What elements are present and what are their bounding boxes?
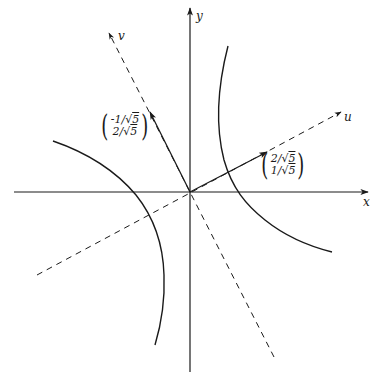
left-paren: (	[261, 150, 268, 180]
right-paren: )	[142, 111, 149, 141]
hyperbola-left-branch	[53, 141, 164, 345]
y-axis-label: y	[195, 9, 203, 23]
hyperbola-right-branch	[219, 46, 332, 252]
v-unit-vector-arrow	[150, 112, 190, 192]
left-paren: (	[101, 111, 108, 141]
u-axis-dashed	[37, 112, 341, 275]
hyperbola-rotated-axes-diagram: x y u v	[0, 0, 381, 385]
vector-entries: 2/√5 1/√5	[271, 153, 296, 177]
right-paren: )	[298, 150, 305, 180]
vector-entries: -1/√5 2/√5	[111, 114, 139, 138]
v-axis-label: v	[118, 29, 125, 43]
u-vector-label: ( 2/√5 1/√5 )	[259, 150, 307, 180]
v-vector-bottom-entry: 2/√5	[113, 126, 138, 138]
v-axis-dashed	[109, 33, 274, 357]
u-axis-label: u	[344, 110, 352, 124]
v-vector-label: ( -1/√5 2/√5 )	[99, 111, 151, 141]
x-axis-label: x	[363, 195, 370, 209]
u-vector-bottom-entry: 1/√5	[271, 165, 296, 177]
